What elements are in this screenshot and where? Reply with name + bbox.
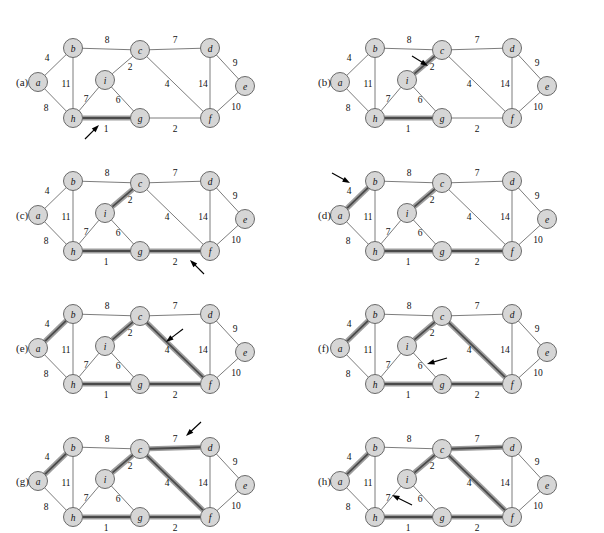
- pointer-arrow-shaft-h: [397, 497, 412, 505]
- edge-weight-ci: 2: [430, 195, 435, 205]
- edge-weight-hi: 7: [386, 493, 391, 503]
- edge-highlight-cf: [449, 456, 505, 511]
- node-label-b: b: [373, 443, 378, 453]
- edge-weight-gi: 6: [418, 361, 423, 371]
- node-label-i: i: [406, 209, 409, 219]
- node-label-a: a: [338, 211, 343, 221]
- node-label-e: e: [243, 481, 247, 491]
- edge-hi: [79, 486, 99, 509]
- edge-weight-ef: 10: [231, 235, 241, 245]
- edge-weight-df: 14: [198, 478, 208, 488]
- edge-highlight-cf: [449, 323, 505, 378]
- edge-weight-ci: 2: [430, 62, 435, 72]
- node-label-a: a: [36, 211, 41, 221]
- node-label-h: h: [71, 513, 76, 523]
- edge-cf: [147, 57, 203, 112]
- edge-weight-bh: 11: [61, 345, 70, 355]
- node-label-g: g: [138, 513, 143, 523]
- node-label-h: h: [71, 247, 76, 257]
- node-label-i: i: [406, 76, 409, 86]
- edge-weight-bh: 11: [363, 478, 372, 488]
- edge-weight-ab: 4: [347, 53, 352, 63]
- edge-weight-hi: 7: [84, 94, 89, 104]
- node-label-d: d: [208, 177, 213, 187]
- edge-weight-gi: 6: [116, 494, 121, 504]
- edge-weight-ef: 10: [231, 102, 241, 112]
- edge-weight-fg: 2: [475, 257, 480, 267]
- edge-cd: [149, 314, 200, 315]
- pointer-arrow-shaft-a: [85, 129, 95, 139]
- node-label-b: b: [373, 177, 378, 187]
- edge-weight-gh: 1: [104, 257, 109, 267]
- edge-weight-de: 9: [535, 58, 540, 68]
- edge-weight-ah: 8: [346, 369, 351, 379]
- graph-svg-e: abcdefghi48811724914102167: [0, 274, 302, 407]
- edge-bc: [384, 447, 432, 448]
- edge-weight-ah: 8: [346, 236, 351, 246]
- edge-hi: [79, 220, 99, 243]
- edge-bc: [384, 314, 432, 315]
- panel-label-b: (b): [318, 76, 331, 88]
- edge-weight-ab: 4: [45, 186, 50, 196]
- edge-weight-ab: 4: [347, 319, 352, 329]
- edge-weight-ab: 4: [347, 452, 352, 462]
- edge-weight-df: 14: [500, 212, 510, 222]
- edge-weight-bc: 8: [407, 35, 412, 45]
- edge-weight-ab: 4: [45, 452, 50, 462]
- node-label-b: b: [71, 310, 76, 320]
- edge-weight-fg: 2: [173, 257, 178, 267]
- edge-weight-gh: 1: [406, 523, 411, 533]
- edge-cd: [451, 181, 502, 182]
- edge-weight-fg: 2: [173, 390, 178, 400]
- panel-d: (d)abcdefghi48811724914102167: [302, 141, 604, 274]
- edge-weight-bh: 11: [61, 478, 70, 488]
- edge-cf: [449, 57, 505, 112]
- pointer-arrow-head-h: [392, 495, 400, 501]
- edge-weight-hi: 7: [386, 94, 391, 104]
- node-label-e: e: [545, 481, 549, 491]
- edge-weight-df: 14: [500, 345, 510, 355]
- pointer-arrow-shaft-g: [190, 422, 201, 432]
- node-label-a: a: [338, 344, 343, 354]
- edge-cf: [147, 190, 203, 245]
- edge-weight-cf: 4: [467, 212, 472, 222]
- edge-cd: [149, 181, 200, 182]
- edge-cd: [451, 314, 502, 315]
- edge-weight-ah: 8: [44, 369, 49, 379]
- edge-weight-cf: 4: [165, 79, 170, 89]
- panel-f: (f)abcdefghi48811724914102167: [302, 274, 604, 407]
- edge-weight-bc: 8: [407, 168, 412, 178]
- edge-weight-bh: 11: [363, 79, 372, 89]
- edge-weight-de: 9: [535, 457, 540, 467]
- edge-weight-ci: 2: [128, 328, 133, 338]
- edge-weight-ci: 2: [128, 461, 133, 471]
- node-label-i: i: [104, 209, 107, 219]
- edge-bc: [82, 181, 130, 182]
- pointer-arrow-shaft-b: [412, 56, 423, 63]
- node-label-g: g: [138, 380, 143, 390]
- node-label-b: b: [373, 310, 378, 320]
- node-label-g: g: [138, 114, 143, 124]
- edge-hi: [381, 353, 401, 376]
- pointer-arrow-shaft-e: [170, 329, 183, 339]
- node-label-e: e: [545, 82, 549, 92]
- edge-cd: [451, 48, 502, 49]
- node-label-i: i: [104, 342, 107, 352]
- node-label-h: h: [373, 380, 378, 390]
- node-label-g: g: [440, 380, 445, 390]
- edge-weight-df: 14: [500, 478, 510, 488]
- panel-label-g: (g): [16, 475, 29, 487]
- edge-weight-df: 14: [198, 79, 208, 89]
- node-label-b: b: [71, 177, 76, 187]
- edge-weight-bh: 11: [363, 212, 372, 222]
- panel-label-c: (c): [16, 209, 28, 221]
- pointer-arrow-head-f: [427, 359, 435, 364]
- edge-weight-gi: 6: [418, 494, 423, 504]
- graph-svg-f: abcdefghi48811724914102167: [302, 274, 604, 407]
- edge-weight-ef: 10: [231, 501, 241, 511]
- edge-weight-gi: 6: [116, 361, 121, 371]
- node-label-g: g: [138, 247, 143, 257]
- edge-weight-hi: 7: [386, 227, 391, 237]
- edge-weight-ef: 10: [231, 368, 241, 378]
- node-label-a: a: [338, 477, 343, 487]
